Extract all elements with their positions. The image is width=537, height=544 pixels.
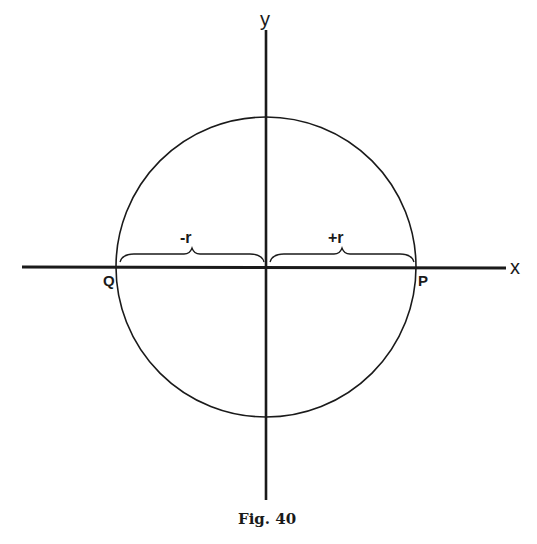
x-axis [22,267,506,268]
figure-canvas: y x Q P -r +r Fig. 40 [0,0,537,544]
figure-caption: Fig. 40 [238,510,296,528]
brace-positive-label: +r [328,229,344,247]
x-axis-label: x [510,256,520,279]
point-p-label: P [418,272,428,289]
point-q-label: Q [103,272,115,289]
diagram-svg [0,0,537,544]
y-axis-label: y [260,8,270,31]
brace-positive [270,248,414,262]
brace-negative-label: -r [180,229,192,247]
brace-negative [120,248,264,262]
